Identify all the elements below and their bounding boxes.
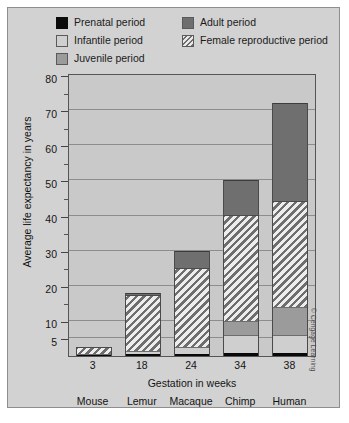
y-tick-mark	[61, 217, 68, 218]
y-tick-label: 5	[51, 337, 57, 348]
y-tick-label: 50	[45, 179, 57, 190]
x-axis-column: 34Chimp	[216, 359, 264, 371]
infantile-swatch-icon	[56, 35, 68, 47]
legend-label-infantile: Infantile period	[74, 35, 143, 46]
x-axis-column: 24Macaque	[167, 359, 215, 371]
legend-item-prenatal: Prenatal period	[56, 14, 145, 31]
legend-label-prenatal: Prenatal period	[74, 17, 145, 28]
bar-segment-adult-period	[175, 251, 209, 269]
copyright-credit: © Cengage Learning	[310, 308, 317, 372]
y-axis: Average life expectancy in years 5102030…	[8, 74, 68, 359]
female-reproductive-swatch-icon	[182, 35, 194, 47]
y-tick-mark	[61, 252, 68, 253]
bar-segment-female-reproductive-period	[77, 347, 111, 354]
x-axis-column: 3Mouse	[69, 359, 117, 371]
x-tick-label-weeks: 34	[216, 359, 264, 371]
figure-panel: Prenatal period Infantile period Juvenil…	[7, 7, 340, 408]
bar-lemur	[125, 293, 161, 356]
x-axis-title: Gestation in weeks	[68, 377, 316, 389]
y-tick-mark	[61, 146, 68, 147]
legend-label-female-reproductive: Female reproductive period	[200, 35, 328, 46]
plot-area	[68, 74, 316, 357]
legend-item-juvenile: Juvenile period	[56, 50, 145, 67]
x-tick-label-weeks: 38	[265, 359, 313, 371]
bar-segment-female-reproductive-period	[273, 201, 307, 306]
bar-segment-female-reproductive-period	[224, 215, 258, 320]
adult-swatch-icon	[182, 17, 194, 29]
legend-item-female-reproductive: Female reproductive period	[182, 32, 328, 49]
y-tick-mark	[61, 76, 68, 77]
bar-segment-adult-period	[224, 180, 258, 215]
bar-segment-infantile-period	[175, 347, 209, 353]
juvenile-swatch-icon	[56, 53, 68, 65]
y-tick-label: 60	[45, 144, 57, 155]
legend-item-adult: Adult period	[182, 14, 328, 31]
legend-column-left: Prenatal period Infantile period Juvenil…	[56, 14, 145, 68]
y-tick-mark	[61, 111, 68, 112]
x-tick-label-species: Human	[257, 395, 321, 407]
y-tick-label: 20	[45, 284, 57, 295]
y-axis-title: Average life expectancy in years	[21, 92, 33, 292]
x-tick-label-weeks: 3	[69, 359, 117, 371]
bar-human	[272, 103, 308, 356]
legend-column-right: Adult period Female reproductive period	[182, 14, 328, 50]
bar-segment-female-reproductive-period	[175, 268, 209, 347]
y-tick-label: 70	[45, 109, 57, 120]
x-axis-column: 38Human	[265, 359, 313, 371]
bar-segment-prenatal-period	[77, 355, 111, 356]
legend-item-infantile: Infantile period	[56, 32, 145, 49]
chart-legend: Prenatal period Infantile period Juvenil…	[22, 14, 322, 69]
y-tick-label: 80	[45, 74, 57, 85]
bar-mouse	[76, 347, 112, 356]
bar-segment-prenatal-period	[175, 354, 209, 356]
y-tick-label: 30	[45, 249, 57, 260]
bar-segment-prenatal-period	[126, 354, 160, 356]
y-tick-label: 40	[45, 214, 57, 225]
legend-label-adult: Adult period	[200, 17, 256, 28]
bar-chimp	[223, 180, 259, 356]
y-tick-mark	[61, 339, 68, 340]
bar-segment-adult-period	[126, 293, 160, 295]
prenatal-swatch-icon	[56, 17, 68, 29]
bar-segment-infantile-period	[126, 351, 160, 354]
x-tick-label-weeks: 18	[118, 359, 166, 371]
y-tick-mark	[61, 181, 68, 182]
y-tick-label: 10	[45, 319, 57, 330]
bar-segment-juvenile-period	[224, 321, 258, 335]
bar-segment-adult-period	[273, 103, 307, 201]
y-tick-mark	[61, 287, 68, 288]
bar-segment-infantile-period	[273, 335, 307, 353]
bar-segment-prenatal-period	[273, 353, 307, 356]
legend-label-juvenile: Juvenile period	[74, 53, 145, 64]
y-tick-mark	[61, 322, 68, 323]
bar-macaque	[174, 251, 210, 356]
bar-segment-female-reproductive-period	[126, 295, 160, 352]
bar-segment-juvenile-period	[273, 307, 307, 335]
x-axis-column: 18Lemur	[118, 359, 166, 371]
bar-segment-prenatal-period	[224, 353, 258, 356]
x-tick-label-weeks: 24	[167, 359, 215, 371]
bar-segment-infantile-period	[224, 335, 258, 353]
